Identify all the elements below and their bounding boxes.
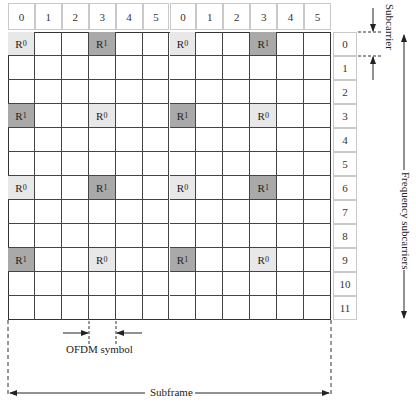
subframe-label: Subframe	[148, 386, 195, 398]
annotation-arrows	[0, 0, 416, 407]
frequency-subcarriers-label: Frequency subcarriers	[400, 172, 412, 269]
ofdm-symbol-label: OFDM symbol	[66, 343, 133, 355]
subcarrier-label: Subcarrier	[384, 4, 396, 50]
